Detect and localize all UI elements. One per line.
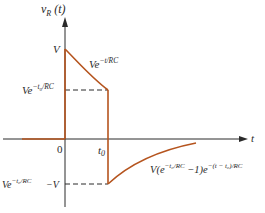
waveform-diagram: vR (t) t 0 t0 V Ve−t₀/RC Ve−t/RC Ve−t₀/R…: [0, 0, 265, 213]
y-axis-arrow-icon: [62, 17, 68, 27]
curve1-label: Ve−t/RC: [89, 56, 119, 70]
v-level-label: V: [53, 43, 61, 55]
x-axis-arrow-icon: [239, 136, 248, 142]
x-axis-label: t: [251, 132, 255, 144]
decay-level-label: Ve−t₀/RC: [22, 82, 55, 96]
curve2-label: V(e−t₀/RC −1)e−(t − t₀)/RC: [150, 162, 243, 176]
axes: [3, 17, 248, 207]
y-axis-label: vR (t): [41, 2, 66, 18]
neg-v-label: −V: [46, 179, 61, 190]
neg-level-label: Ve−t₀/RC: [2, 177, 32, 190]
origin-label: 0: [57, 143, 63, 155]
t0-label: t0: [98, 144, 105, 158]
